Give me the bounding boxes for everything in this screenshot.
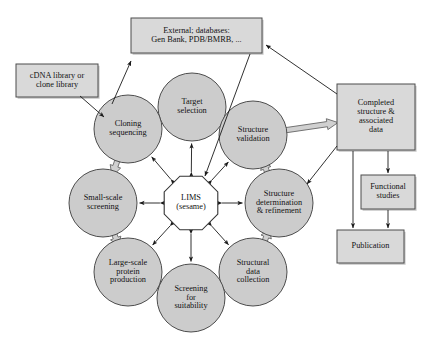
box-shapes xyxy=(16,18,417,265)
box-cdna-library[interactable] xyxy=(16,64,98,97)
node-large-scale-protein-production[interactable] xyxy=(94,238,162,306)
spoke-LIMS-cloning-sequencing xyxy=(152,157,171,180)
node-small-scale-screening[interactable] xyxy=(69,169,137,237)
node-screening-for-suitability[interactable] xyxy=(157,264,225,332)
connector-completed-to-determination xyxy=(307,146,337,184)
box-external-databases[interactable] xyxy=(131,18,262,53)
hub-shape xyxy=(164,176,218,230)
diagram-canvas xyxy=(0,0,429,348)
box-completed-structure[interactable] xyxy=(337,84,415,150)
box-functional-studies[interactable] xyxy=(361,175,415,209)
node-target-selection[interactable] xyxy=(158,73,226,141)
node-lims-hub[interactable] xyxy=(164,176,218,230)
block-arrow-structure-validation-to-completed-structure xyxy=(283,119,338,133)
connector-cdna-to-cloning xyxy=(80,96,104,117)
spoke-LIMS-large-scale-protein-production xyxy=(153,226,170,245)
spoke-LIMS-structural-data-collection xyxy=(212,226,229,245)
box-publication[interactable] xyxy=(337,230,404,263)
node-structure-determination[interactable] xyxy=(245,169,313,237)
node-structural-data-collection[interactable] xyxy=(219,238,287,306)
node-cloning-sequencing[interactable] xyxy=(94,95,162,163)
spoke-LIMS-structure-validation xyxy=(212,162,228,180)
pipeline-diagram: TargetselectionStructurevalidationStruct… xyxy=(0,0,429,348)
connector-completed-to-databases xyxy=(266,45,337,94)
